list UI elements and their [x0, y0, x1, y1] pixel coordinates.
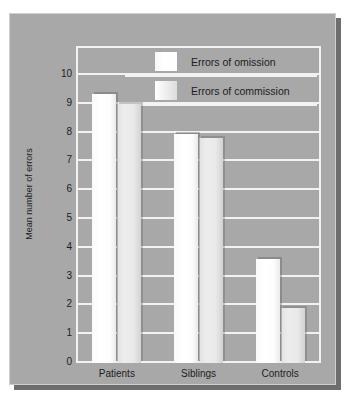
bar-errors-of-commission: [281, 308, 305, 363]
x-axis-tick-label: Siblings: [159, 368, 239, 379]
y-axis-tick-label: 4: [42, 242, 72, 252]
y-axis-tick-label: 9: [42, 98, 72, 108]
y-axis-tick-label: 0: [42, 357, 72, 367]
y-axis-tick-label: 10: [42, 69, 72, 79]
y-axis-tick-label: 6: [42, 184, 72, 194]
legend-swatch-omission: [155, 52, 177, 71]
y-axis-tick-label: 8: [42, 127, 72, 137]
bar-errors-of-commission: [117, 104, 141, 363]
legend-item-label: Errors of commission: [191, 85, 290, 97]
bar-errors-of-omission: [92, 94, 116, 363]
x-axis-tick-label: Controls: [240, 368, 320, 379]
y-axis-tick-label: 7: [42, 155, 72, 165]
legend-item: Errors of omission: [125, 48, 317, 77]
x-axis-tick-label: Patients: [77, 368, 157, 379]
legend-item-label: Errors of omission: [191, 56, 276, 68]
y-axis-tick-label: 1: [42, 328, 72, 338]
y-axis-tick-labels: 109876543210: [36, 14, 72, 396]
y-axis-tick-label: 2: [42, 299, 72, 309]
bar-errors-of-commission: [199, 138, 223, 363]
chart-legend: Errors of omissionErrors of commission: [125, 48, 317, 106]
legend-item: Errors of commission: [125, 77, 317, 106]
figure-container: Mean number of errors 109876543210 Patie…: [0, 0, 346, 396]
y-axis-tick-label: 5: [42, 213, 72, 223]
bar-errors-of-omission: [174, 134, 198, 363]
y-axis-title: Mean number of errors: [24, 139, 34, 249]
bar-errors-of-omission: [256, 259, 280, 363]
legend-swatch-commission: [155, 81, 177, 100]
figure-plate: Mean number of errors 109876543210 Patie…: [9, 13, 336, 385]
y-axis-tick-label: 3: [42, 271, 72, 281]
